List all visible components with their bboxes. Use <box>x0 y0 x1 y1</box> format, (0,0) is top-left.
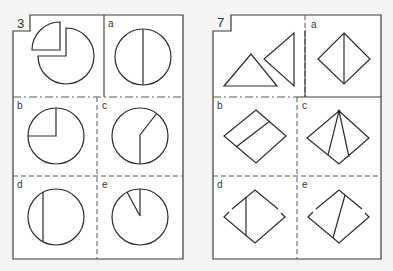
puzzle-7: 7 a b c <box>213 15 381 259</box>
puzzle-7-option-b-label: b <box>217 100 223 111</box>
puzzle-7-option-d-label: d <box>217 179 223 190</box>
puzzle-3-option-b-label: b <box>17 100 23 111</box>
puzzle-7-option-e-label: e <box>302 179 308 190</box>
option-c-apex-dot <box>338 110 341 113</box>
puzzle-3-option-a-label: a <box>108 18 114 29</box>
puzzle-3: 3 a b c d <box>13 15 183 259</box>
puzzle-7-option-a-label: a <box>311 19 317 30</box>
puzzle-7-number: 7 <box>217 15 224 30</box>
puzzle-3-number: 3 <box>17 16 24 31</box>
puzzle-3-option-c-label: c <box>102 100 107 111</box>
figure-canvas: 3 a b c d <box>0 0 393 271</box>
puzzle-3-option-e-label: e <box>102 179 108 190</box>
puzzle-3-frame <box>13 15 183 259</box>
puzzle-7-option-c-label: c <box>302 100 307 111</box>
puzzle-3-option-d-label: d <box>17 179 23 190</box>
